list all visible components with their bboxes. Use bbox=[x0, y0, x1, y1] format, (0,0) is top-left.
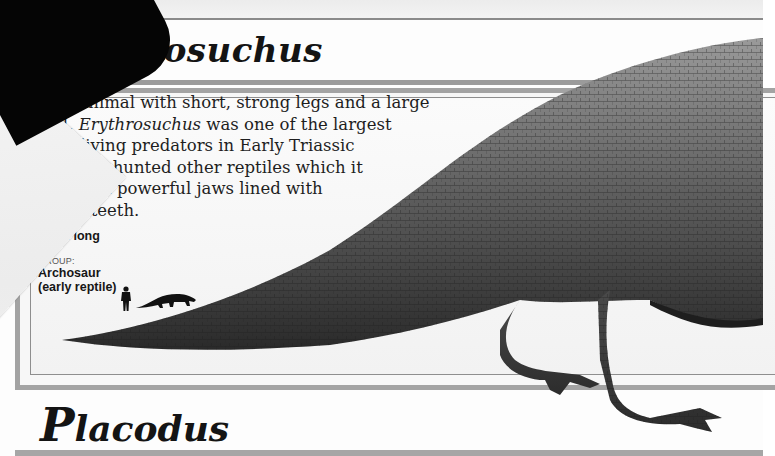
human-silhouette-icon bbox=[121, 286, 131, 311]
erythrosuchus-silhouette-icon bbox=[136, 294, 196, 308]
group-value-line-1: Archosaur bbox=[38, 266, 101, 280]
title-initial: P bbox=[40, 398, 75, 452]
title-rest: lacodus bbox=[75, 407, 230, 449]
group-value-line-2: (early reptile) bbox=[38, 280, 117, 294]
species-name-italic: Erythrosuchus bbox=[79, 115, 201, 134]
description-line-3: land-living predators in Early Triassic bbox=[38, 135, 458, 157]
heading-rule-bottom bbox=[15, 450, 763, 456]
scale-comparison bbox=[118, 286, 200, 312]
entry-title-placodus: Placodus bbox=[40, 398, 229, 452]
description-line-2: ead, Erythrosuchus was one of the larges… bbox=[38, 114, 458, 136]
description-line-2-end: was one of the largest bbox=[201, 115, 391, 134]
